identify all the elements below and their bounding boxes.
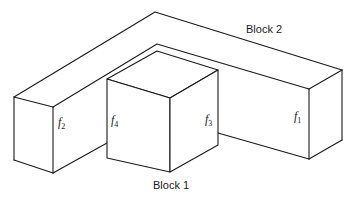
block-2-label: Block 2	[246, 23, 282, 35]
block-2-right-end-bottom	[309, 140, 342, 159]
block-diagram: Block 2 Block 1 f2 f4 f3 f1	[0, 0, 350, 201]
block-1-label: Block 1	[153, 179, 189, 191]
block-2-left-end-bottom	[14, 160, 53, 173]
block-2-right-end-top	[309, 70, 342, 89]
block-1-shape	[107, 51, 218, 172]
face-label-f1: f1	[294, 109, 301, 125]
block-2-right-arm-bottom	[218, 133, 309, 159]
face-label-f2: f2	[58, 115, 65, 131]
block-2-left-arm-bottom	[53, 143, 107, 173]
block-2-left-end-top	[14, 97, 53, 107]
